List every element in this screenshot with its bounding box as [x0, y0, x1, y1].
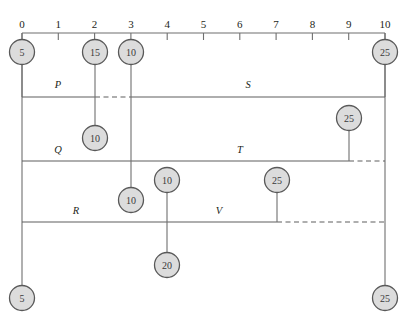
diagram-stage: 012345678910 PSQTRV 51510251025101025205…	[0, 0, 410, 326]
node-value-n1: 5	[20, 47, 25, 58]
node-value-n11: 5	[20, 293, 25, 304]
node-n2[interactable]: 15	[83, 40, 108, 65]
axis-tick-label-8: 8	[310, 18, 316, 30]
segment-label-S: S	[245, 79, 251, 90]
axis-group: 012345678910	[19, 18, 391, 40]
axis-tick-label-7: 7	[273, 18, 279, 30]
node-n12[interactable]: 25	[373, 286, 398, 311]
axis-tick-label-9: 9	[346, 18, 352, 30]
node-n6[interactable]: 25	[337, 106, 362, 131]
node-n3[interactable]: 10	[119, 40, 144, 65]
axis-tick-label-4: 4	[164, 18, 170, 30]
row-labels-group: PSQTRV	[54, 79, 252, 216]
rows-group	[22, 97, 385, 222]
node-value-n4: 25	[380, 47, 390, 58]
node-value-n5: 10	[90, 133, 100, 144]
segment-label-R: R	[72, 205, 80, 216]
axis-tick-label-6: 6	[237, 18, 243, 30]
node-n10[interactable]: 20	[155, 253, 180, 278]
node-n5[interactable]: 10	[83, 126, 108, 151]
diagram-canvas: 012345678910 PSQTRV 51510251025101025205…	[0, 0, 410, 326]
segment-label-Q: Q	[54, 144, 62, 155]
node-n4[interactable]: 25	[373, 40, 398, 65]
node-value-n12: 25	[380, 293, 390, 304]
axis-tick-label-0: 0	[19, 18, 25, 30]
node-value-n8: 10	[126, 195, 136, 206]
segment-label-T: T	[237, 144, 244, 155]
node-value-n2: 15	[90, 47, 100, 58]
node-value-n7: 10	[162, 175, 172, 186]
node-n1[interactable]: 5	[10, 40, 35, 65]
node-value-n3: 10	[126, 47, 136, 58]
axis-tick-label-2: 2	[92, 18, 98, 30]
node-n9[interactable]: 25	[265, 168, 290, 193]
axis-tick-label-5: 5	[201, 18, 207, 30]
node-n7[interactable]: 10	[155, 168, 180, 193]
node-value-n9: 25	[272, 175, 282, 186]
node-n8[interactable]: 10	[119, 188, 144, 213]
node-n11[interactable]: 5	[10, 286, 35, 311]
segment-label-P: P	[54, 79, 62, 90]
axis-tick-label-3: 3	[128, 18, 134, 30]
axis-tick-label-1: 1	[56, 18, 62, 30]
axis-tick-label-10: 10	[380, 18, 392, 30]
node-value-n10: 20	[162, 260, 172, 271]
segment-label-V: V	[216, 205, 224, 216]
nodes-group: 5151025102510102520525	[10, 40, 398, 311]
stems-group	[22, 64, 385, 253]
node-value-n6: 25	[344, 113, 354, 124]
